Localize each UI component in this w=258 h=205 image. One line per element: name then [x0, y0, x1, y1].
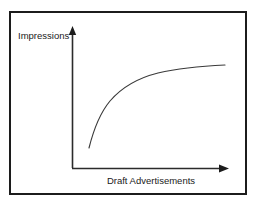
y-axis-label: Impressions [18, 30, 69, 41]
x-axis-label: Draft Advertisements [107, 175, 195, 186]
figure-container: Impressions Draft Advertisements [0, 0, 258, 205]
chart-canvas: Impressions Draft Advertisements [0, 0, 258, 205]
